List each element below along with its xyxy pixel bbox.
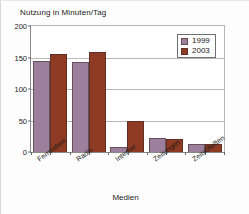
legend-item-1999: 1999	[181, 37, 210, 45]
x-axis-group-separator-mark	[224, 152, 225, 155]
x-axis-group-separator-mark	[70, 152, 71, 155]
y-axis-tick-label: 100	[14, 85, 27, 94]
bar-group	[70, 26, 109, 152]
y-axis-tick-label: 200	[14, 22, 27, 31]
legend-label-1999: 1999	[192, 37, 210, 45]
x-axis-group-separator-mark	[31, 152, 32, 155]
bar[interactable]	[89, 52, 106, 152]
y-axis-tick-mark	[28, 57, 31, 58]
y-axis-tick-mark	[28, 89, 31, 90]
bar-group	[31, 26, 70, 152]
x-axis-group-separator-mark	[147, 152, 148, 155]
legend-label-2003: 2003	[192, 47, 210, 55]
bar-chart-figure: Nutzung in Minuten/Tag 050100150200Ferns…	[0, 0, 249, 214]
legend-swatch-2003-icon	[181, 48, 188, 55]
y-axis-title: Nutzung in Minuten/Tag	[20, 8, 106, 17]
y-axis-tick-mark	[28, 120, 31, 121]
y-axis-tick-label: 50	[19, 116, 27, 125]
y-axis-tick-label: 0	[23, 148, 27, 157]
x-axis-group-separator-mark	[185, 152, 186, 155]
legend-swatch-1999-icon	[181, 38, 188, 45]
bar-group	[108, 26, 147, 152]
bar[interactable]	[33, 61, 50, 152]
x-axis-group-separator-mark	[108, 152, 109, 155]
chart-legend: 1999 2003	[177, 34, 216, 58]
x-axis-title: Medien	[1, 193, 249, 202]
bar[interactable]	[72, 62, 89, 152]
legend-item-2003: 2003	[181, 47, 210, 55]
y-axis-tick-label: 150	[14, 53, 27, 62]
bar[interactable]	[50, 54, 67, 152]
y-axis-tick-mark	[28, 26, 31, 27]
